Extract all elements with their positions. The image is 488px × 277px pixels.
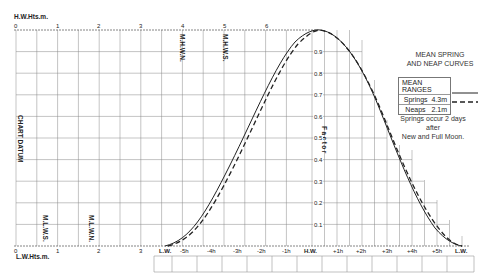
svg-text:2: 2 bbox=[97, 23, 101, 29]
svg-text:-1h: -1h bbox=[282, 248, 291, 254]
mlws-label: M.L.W.S. bbox=[42, 215, 49, 242]
hw-ticks: 0 1 2 3 4 5 6 bbox=[14, 23, 269, 29]
svg-text:0.5: 0.5 bbox=[314, 135, 323, 141]
svg-text:+1h: +1h bbox=[333, 248, 343, 254]
mhws-label: M.H.W.S. bbox=[222, 34, 229, 62]
factor-grid-horizontal bbox=[16, 52, 449, 225]
svg-text:2: 2 bbox=[97, 248, 101, 254]
svg-text:6: 6 bbox=[265, 23, 269, 29]
mean-ranges-title: MEAN RANGES bbox=[399, 78, 450, 94]
springs-note: Springs occur 2 days after New and Full … bbox=[388, 114, 478, 141]
svg-text:0.8: 0.8 bbox=[314, 71, 323, 77]
svg-text:-2h: -2h bbox=[257, 248, 266, 254]
svg-text:5: 5 bbox=[223, 23, 227, 29]
svg-text:1: 1 bbox=[56, 248, 60, 254]
svg-text:+2h: +2h bbox=[356, 248, 366, 254]
note-line1: Springs occur 2 days bbox=[388, 114, 478, 123]
svg-text:0.7: 0.7 bbox=[314, 92, 323, 98]
svg-text:-3h: -3h bbox=[233, 248, 242, 254]
mlwn-label: M.L.W.N. bbox=[88, 215, 95, 242]
mhwn-label: M.H.W.N. bbox=[179, 34, 186, 62]
svg-text:3: 3 bbox=[139, 23, 143, 29]
svg-text:-5h: -5h bbox=[180, 248, 189, 254]
svg-text:0.3: 0.3 bbox=[314, 179, 323, 185]
mean-ranges-box: MEAN RANGES Springs 4.3m Neaps 2.1m bbox=[398, 77, 451, 115]
svg-text:L.W.: L.W. bbox=[159, 248, 172, 254]
svg-text:L.W.: L.W. bbox=[455, 248, 468, 254]
svg-text:+3h: +3h bbox=[382, 248, 392, 254]
factor-ticks: 0.1 0.2 0.3 0.4 0.5 0.6 0.7 0.8 0.9 bbox=[313, 48, 323, 228]
svg-text:0: 0 bbox=[14, 23, 18, 29]
svg-text:H.W.: H.W. bbox=[304, 248, 317, 254]
svg-text:0.4: 0.4 bbox=[314, 157, 323, 163]
svg-text:+5h: +5h bbox=[432, 248, 442, 254]
svg-text:-4h: -4h bbox=[207, 248, 216, 254]
lw-axis-title: L.W.Hts.m. bbox=[16, 253, 49, 260]
svg-text:0.2: 0.2 bbox=[314, 200, 323, 206]
note-line2: after bbox=[388, 123, 478, 132]
springs-range: Springs 4.3m bbox=[399, 94, 450, 104]
svg-text:3: 3 bbox=[139, 248, 143, 254]
svg-text:1: 1 bbox=[56, 23, 60, 29]
chart-datum-label: CHART DATUM bbox=[17, 115, 24, 163]
neaps-range: Neaps 2.1m bbox=[399, 104, 450, 114]
time-entry-boxes bbox=[154, 256, 474, 272]
svg-text:+4h: +4h bbox=[407, 248, 417, 254]
legend-title-line2: AND NEAP CURVES bbox=[395, 59, 485, 68]
legend-title-line1: MEAN SPRING bbox=[395, 50, 485, 59]
svg-text:0.9: 0.9 bbox=[314, 49, 323, 55]
note-line3: New and Full Moon. bbox=[388, 132, 478, 141]
svg-text:0.1: 0.1 bbox=[314, 222, 323, 228]
hw-axis-title: H.W.Hts.m. bbox=[14, 13, 48, 20]
svg-text:4: 4 bbox=[181, 23, 185, 29]
hour-ticks: L.W. -5h -4h -3h -2h -1h H.W. +1h +2h +3… bbox=[159, 248, 468, 254]
svg-text:0.6: 0.6 bbox=[314, 114, 323, 120]
legend-title: MEAN SPRING AND NEAP CURVES bbox=[395, 50, 485, 68]
